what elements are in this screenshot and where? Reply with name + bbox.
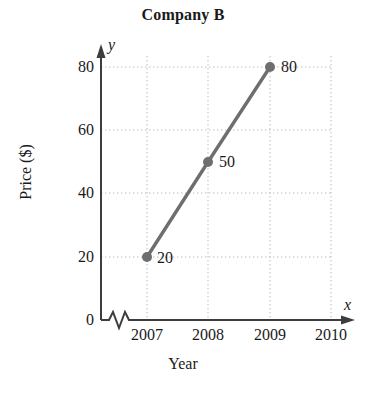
y-tick-label-60: 60 bbox=[60, 121, 94, 139]
x-tick-label-2010: 2010 bbox=[301, 326, 361, 344]
data-point-2007 bbox=[142, 252, 152, 262]
x-axis-variable-label: x bbox=[344, 296, 351, 314]
x-tick-label-2007: 2007 bbox=[117, 326, 177, 344]
y-tick-label-0: 0 bbox=[60, 311, 94, 329]
data-point-2008 bbox=[203, 157, 213, 167]
y-axis-title: Price ($) bbox=[17, 127, 35, 217]
data-label-2009: 80 bbox=[281, 58, 297, 76]
data-point-2009 bbox=[265, 62, 275, 72]
y-tick-label-20: 20 bbox=[60, 248, 94, 266]
y-tick-label-40: 40 bbox=[60, 184, 94, 202]
x-axis-title: Year bbox=[0, 355, 366, 373]
x-tick-label-2009: 2009 bbox=[240, 326, 300, 344]
x-tick-label-2008: 2008 bbox=[178, 326, 238, 344]
chart-figure: Company B bbox=[0, 0, 366, 394]
y-axis bbox=[97, 44, 106, 320]
data-label-2007: 20 bbox=[157, 249, 173, 267]
vertical-gridlines bbox=[147, 56, 331, 320]
y-axis-variable-label: y bbox=[108, 36, 115, 54]
y-tick-label-80: 80 bbox=[60, 58, 94, 76]
data-label-2008: 50 bbox=[219, 153, 235, 171]
horizontal-gridlines bbox=[101, 67, 331, 257]
